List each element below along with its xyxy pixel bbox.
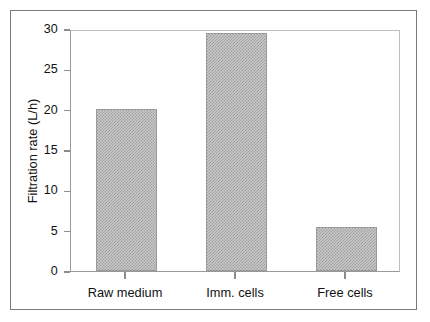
- figure: Filtration rate (L/h) 051015202530 Raw m…: [0, 0, 430, 322]
- y-tick-label: 30: [44, 22, 58, 36]
- y-tick-label: 5: [51, 224, 58, 238]
- y-tick-label: 0: [51, 264, 58, 278]
- y-tick-label: 10: [44, 183, 58, 197]
- x-tick-label: Imm. cells: [206, 285, 264, 300]
- x-tick-mark: [234, 272, 235, 279]
- y-tick-label: 20: [44, 103, 58, 117]
- bar-raw-medium[interactable]: [96, 109, 157, 271]
- bar-free-cells[interactable]: [316, 227, 377, 271]
- bar-imm-cells[interactable]: [206, 33, 267, 271]
- plot-area: [70, 30, 400, 272]
- x-tick-mark: [124, 272, 125, 279]
- x-tick-label: Raw medium: [88, 285, 163, 300]
- x-tick-mark: [344, 272, 345, 279]
- y-axis-title: Filtration rate (L/h): [24, 30, 42, 272]
- y-tick-label: 25: [44, 62, 58, 76]
- y-tick-label: 15: [44, 143, 58, 157]
- x-tick-label: Free cells: [317, 285, 372, 300]
